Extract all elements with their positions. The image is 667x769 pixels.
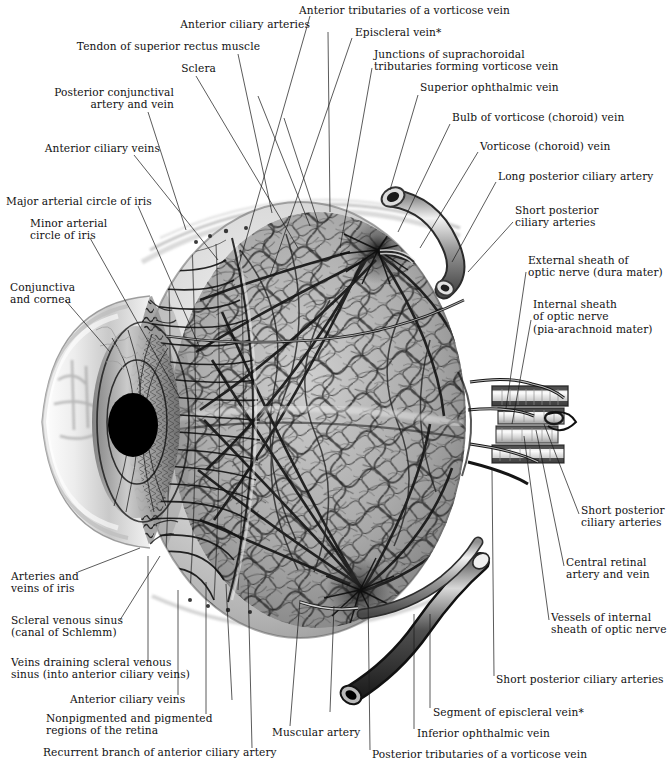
label-posterior-conjunctival-artery-and-vein: Posterior conjunctival artery and vein bbox=[12, 86, 174, 111]
label-minor-arterial-circle-of-iris: Minor arterial circle of iris bbox=[30, 217, 107, 242]
label-nonpigmented-and-pigmented-regions: Nonpigmented and pigmented regions of th… bbox=[46, 712, 213, 737]
label-scleral-venous-sinus: Scleral venous sinus (canal of Schlemm) bbox=[11, 614, 123, 639]
label-short-posterior-ciliary-arteries-right: Short posterior ciliary arteries bbox=[581, 504, 665, 529]
label-short-posterior-ciliary-arteries-upper: Short posterior ciliary arteries bbox=[515, 204, 599, 229]
label-long-posterior-ciliary-artery: Long posterior ciliary artery bbox=[498, 170, 653, 182]
label-internal-sheath-of-optic-nerve: Internal sheath of optic nerve (pia-arac… bbox=[533, 298, 653, 335]
label-posterior-tributaries-of-a-vorticose-vein: Posterior tributaries of a vorticose vei… bbox=[372, 748, 587, 760]
label-junctions-of-suprachoroidal-tributaries: Junctions of suprachoroidal tributaries … bbox=[374, 48, 559, 73]
label-episcleral-vein-top: Episcleral vein* bbox=[355, 26, 441, 38]
label-sclera: Sclera bbox=[12, 62, 216, 74]
label-major-arterial-circle-of-iris: Major arterial circle of iris bbox=[6, 195, 152, 207]
label-anterior-tributaries-of-a-vorticose-vein: Anterior tributaries of a vorticose vein bbox=[299, 4, 510, 16]
leader-vessels-internal-sheath bbox=[524, 436, 549, 620]
label-bulb-of-vorticose-choroid-vein: Bulb of vorticose (choroid) vein bbox=[452, 111, 624, 123]
label-anterior-ciliary-veins-top: Anterior ciliary veins bbox=[12, 142, 160, 154]
label-veins-draining-scleral-venous-sinus: Veins draining scleral venous sinus (int… bbox=[11, 656, 190, 681]
label-segment-of-episcleral-vein: Segment of episcleral vein* bbox=[433, 706, 584, 718]
leader-short-posterior-bottom bbox=[492, 470, 494, 676]
leader-anterior-ciliary-arteries bbox=[328, 32, 330, 212]
label-vessels-of-internal-sheath-of-optic-nerve: Vessels of internal sheath of optic nerv… bbox=[551, 611, 667, 636]
label-anterior-ciliary-veins-bottom: Anterior ciliary veins bbox=[70, 693, 185, 705]
optic-nerve-stump bbox=[458, 372, 576, 484]
leader-short-posterior-right bbox=[544, 424, 579, 514]
leader-long-posterior-ciliary bbox=[452, 182, 496, 262]
label-inferior-ophthalmic-vein: Inferior ophthalmic vein bbox=[417, 727, 550, 739]
leader-short-posterior-upper bbox=[468, 222, 513, 272]
leader-tendon-of-superior-rectus bbox=[238, 54, 272, 213]
label-muscular-artery: Muscular artery bbox=[272, 726, 360, 738]
external-sheath-dura bbox=[492, 386, 568, 406]
leader-scleral-venous-sinus bbox=[120, 556, 160, 620]
label-tendon-of-superior-rectus-muscle: Tendon of superior rectus muscle bbox=[12, 40, 260, 52]
optic-nerve-core bbox=[496, 426, 558, 443]
leader-superior-ophthalmic-vein bbox=[390, 95, 418, 190]
label-central-retinal-artery-and-vein: Central retinal artery and vein bbox=[566, 556, 650, 581]
pupil bbox=[108, 393, 158, 457]
leader-arteries-veins-of-iris bbox=[78, 548, 140, 572]
label-anterior-ciliary-arteries: Anterior ciliary arteries bbox=[12, 18, 310, 30]
label-short-posterior-ciliary-arteries-bottom: Short posterior ciliary arteries bbox=[496, 673, 664, 685]
label-arteries-and-veins-of-iris: Arteries and veins of iris bbox=[11, 570, 79, 595]
label-conjunctiva-and-cornea: Conjunctiva and cornea bbox=[10, 281, 75, 306]
label-external-sheath-of-optic-nerve: External sheath of optic nerve (dura mat… bbox=[528, 254, 663, 279]
label-vorticose-choroid-vein: Vorticose (choroid) vein bbox=[480, 140, 610, 152]
label-recurrent-branch-of-anterior-ciliary-artery: Recurrent branch of anterior ciliary art… bbox=[43, 746, 277, 758]
label-superior-ophthalmic-vein: Superior ophthalmic vein bbox=[420, 81, 559, 93]
